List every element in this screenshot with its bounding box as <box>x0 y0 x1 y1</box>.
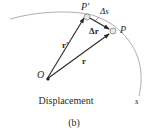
label-p-initial: P <box>119 24 126 35</box>
label-r: r <box>82 56 86 66</box>
caption-displacement: Displacement <box>39 95 94 106</box>
particle-p-prime-icon <box>84 14 90 20</box>
caption-sublabel: (b) <box>68 117 80 129</box>
label-origin: O <box>37 69 44 80</box>
origin-point-icon <box>46 77 49 80</box>
vector-r <box>47 34 109 79</box>
displacement-diagram: O P′ P r′ r Δr Δs s Displacement (b) <box>0 0 151 134</box>
label-delta-s: Δs <box>99 6 109 16</box>
delta-s-leader <box>95 17 99 21</box>
label-r-prime: r′ <box>62 40 69 50</box>
label-p-final: P′ <box>80 1 90 12</box>
label-path-s: s <box>135 96 139 106</box>
label-delta-r: Δr <box>89 26 99 36</box>
particle-p-icon <box>110 28 116 34</box>
